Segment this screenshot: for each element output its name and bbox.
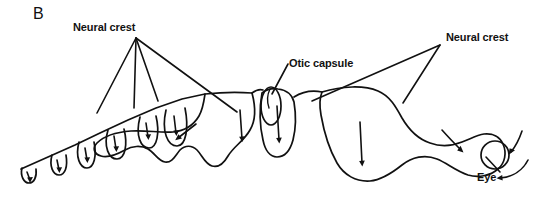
- panel-letter: B: [33, 6, 44, 22]
- label-neural-crest-right: Neural crest: [446, 32, 508, 43]
- figure-panel-b: B Neural crest Otic capsule Neural crest…: [0, 0, 550, 197]
- head-lobe: [320, 87, 505, 181]
- neural-crest-left-leaders: [97, 38, 237, 113]
- somite-migration-arrows: [27, 116, 179, 183]
- neural-crest-right-leaders: [312, 45, 440, 103]
- label-eye: Eye: [477, 172, 496, 183]
- mandibular-lobe: [94, 92, 255, 166]
- label-neural-crest-left: Neural crest: [73, 22, 135, 33]
- label-otic-capsule: Otic capsule: [289, 58, 353, 69]
- eye-leader: [486, 157, 500, 172]
